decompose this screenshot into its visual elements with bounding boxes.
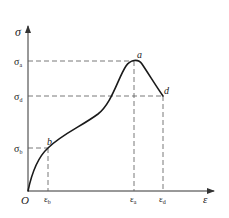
tick-eps-d: εd xyxy=(159,194,166,205)
x-axis-label: ε xyxy=(203,193,208,205)
guide-lines xyxy=(28,61,163,191)
stress-strain-diagram: σ ε O σa σd σb εb εa εd a b d xyxy=(0,0,229,218)
tick-sigma-d: σd xyxy=(14,91,22,103)
y-axis-label: σ xyxy=(15,25,22,39)
point-label-a: a xyxy=(137,49,142,60)
tick-eps-b: εb xyxy=(44,194,51,205)
tick-eps-a: εa xyxy=(130,194,137,205)
point-label-b: b xyxy=(47,136,52,147)
tick-sigma-b: σb xyxy=(14,143,22,155)
origin-label: O xyxy=(21,194,29,206)
stress-strain-curve xyxy=(28,60,163,191)
point-label-d: d xyxy=(164,85,170,96)
tick-sigma-a: σa xyxy=(14,56,22,68)
